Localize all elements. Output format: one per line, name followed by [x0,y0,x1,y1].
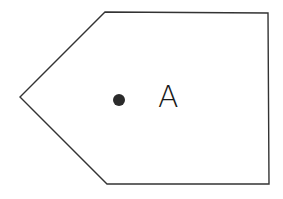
point-marker [113,94,125,106]
diagram-canvas: A [0,0,283,199]
pentagon-shape [20,12,269,184]
point-label: A [158,79,179,114]
